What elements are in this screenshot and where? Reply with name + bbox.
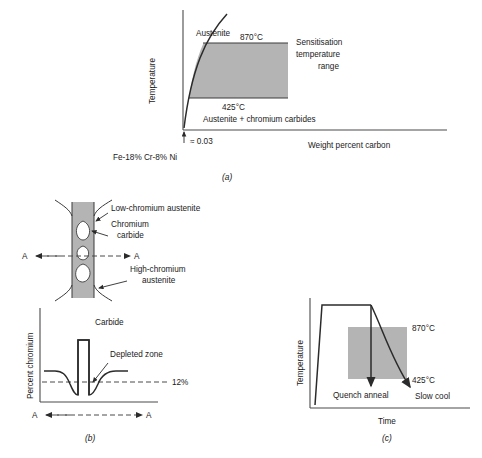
panel-b: A A Low-chromium austenite Chromium carb… — [22, 200, 201, 443]
panel-b-callout-low-cr-leader — [96, 213, 108, 221]
panel-b-graph-peak-label: Carbide — [95, 318, 124, 327]
panel-b-graph-section-label-right: A — [146, 411, 152, 420]
panel-a: Temperature Weight percent carbon Austen… — [113, 10, 447, 182]
panel-c-slow-cool-label: Slow cool — [415, 392, 450, 401]
panel-c-x-axis-label: Time — [378, 417, 396, 426]
panel-a-id: (a) — [222, 172, 232, 182]
panel-a-x-axis-label: Weight percent carbon — [308, 141, 391, 150]
panel-b-graph-dip-label: Depleted zone — [110, 350, 163, 359]
panel-b-graph-profile-curve — [44, 340, 128, 395]
figure-root: Temperature Weight percent carbon Austen… — [0, 0, 482, 458]
panel-a-sensitisation-band — [189, 43, 288, 98]
panel-a-band-caption-line2: temperature — [296, 50, 341, 59]
panel-a-upper-temp-label: 870°C — [240, 33, 263, 42]
panel-c-upper-temp-label: 870°C — [412, 324, 435, 333]
panel-a-region-carbides-label: Austenite + chromium carbides — [203, 115, 316, 124]
panel-b-callout-high-cr-line2: austenite — [142, 276, 176, 285]
panel-b-callout-low-cr-label: Low-chromium austenite — [111, 204, 201, 213]
panel-b-id: (b) — [85, 433, 95, 443]
panel-a-lower-temp-label: 425°C — [222, 103, 245, 112]
panel-c-y-axis-label: Temperature — [296, 340, 305, 386]
panel-b-callout-high-cr-leader — [99, 281, 127, 288]
panel-b-callout-carbide-line2: carbide — [117, 231, 144, 240]
panel-b-graph-section-label-left: A — [32, 411, 38, 420]
panel-b-grain-edge-bottom-left — [55, 285, 72, 301]
panel-c-lower-temp-label: 425°C — [412, 376, 435, 385]
panel-a-carbon-marker-label: ≈ 0.03 — [190, 137, 213, 146]
panel-c-sensitisation-band — [348, 327, 407, 379]
panel-a-y-axis-label: Temperature — [148, 58, 157, 104]
panel-b-graph-threshold-label: 12% — [172, 378, 188, 387]
panel-b-callout-high-cr-line1: High-chromium — [130, 265, 186, 274]
panel-b-carbide-particle-lower — [76, 264, 90, 282]
panel-a-band-caption-line3: range — [318, 62, 339, 71]
panel-a-alloy-label: Fe-18% Cr-8% Ni — [113, 153, 177, 162]
panel-b-graph-y-axis-label: Percent chromium — [26, 332, 35, 399]
panel-b-section-label-left: A — [22, 252, 28, 261]
panel-a-region-austenite-label: Austenite — [196, 29, 231, 38]
panel-b-carbide-particle-middle — [77, 246, 89, 260]
panel-b-callout-carbide-line1: Chromium — [111, 220, 149, 229]
panel-b-grain-edge-top-right — [94, 200, 112, 216]
panel-b-section-label-right: A — [134, 252, 140, 261]
panel-c-quench-label: Quench anneal — [333, 391, 389, 400]
panel-b-graph-carbide-spike — [78, 340, 89, 395]
panel-a-band-caption-line1: Sensitisation — [296, 38, 343, 47]
panel-c-id: (c) — [382, 433, 392, 443]
panel-c: Temperature Time 870°C 425°C Quench anne… — [296, 298, 470, 443]
panel-b-grain-edge-top-left — [55, 200, 72, 216]
